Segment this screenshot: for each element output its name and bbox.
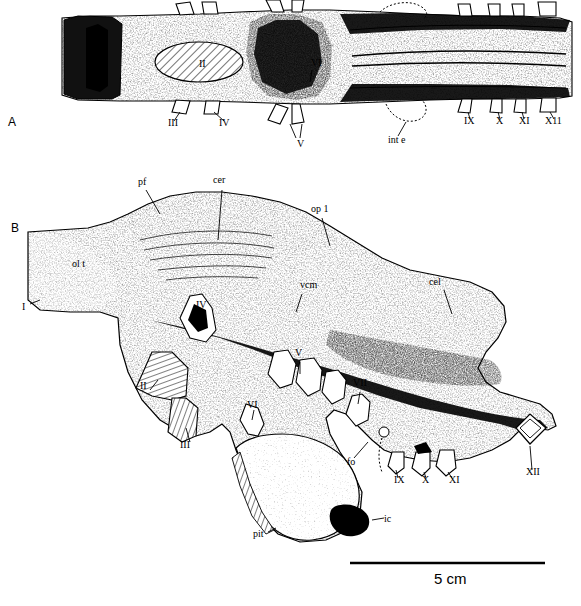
label-a-vi: VI [311,58,322,68]
label-b-pf: pf [138,177,146,187]
label-b-iii: III [180,440,190,450]
label-a-ii: II [199,59,206,69]
label-a-i: I [92,56,95,66]
label-b-v: V [295,348,302,358]
scale-bar-label: 5 cm [434,571,467,586]
label-b-vi: VI [247,400,258,410]
label-b-vii: VII [353,378,367,388]
label-a-v: V [297,139,304,149]
panel-letter-b: B [11,222,19,234]
label-a-iii: III [168,118,178,128]
label-b-pit: pit [253,529,264,539]
label-a-x: X [496,116,503,126]
panel-letter-a: A [8,116,16,128]
figure-root: A B I II III IV V VI IX X XI X11 int e p… [0,0,581,606]
label-b-ii: II [140,381,147,391]
label-b-ic: ic [384,514,391,524]
label-b-cer: cer [213,175,225,185]
panel-b-drawing [28,190,556,563]
anatomical-illustration [0,0,581,606]
label-b-iv: IV [196,300,207,310]
label-b-cel: cel [429,277,441,287]
label-b-fo: fo [347,457,355,467]
label-b-ix: IX [394,475,405,485]
label-b-x: X [422,475,429,485]
label-b-op1: op 1 [311,204,329,214]
label-a-ix: IX [464,116,475,126]
label-b-i: I [22,302,25,312]
label-a-x11: X11 [545,116,562,126]
label-b-olt: ol t [72,259,85,269]
label-a-iv: IV [219,118,230,128]
label-b-xi: XI [449,475,460,485]
label-b-vcm: vcm [300,280,317,290]
label-a-xi: XI [519,116,530,126]
label-a-int-e: int e [388,135,406,145]
label-b-xii: XII [526,467,540,477]
